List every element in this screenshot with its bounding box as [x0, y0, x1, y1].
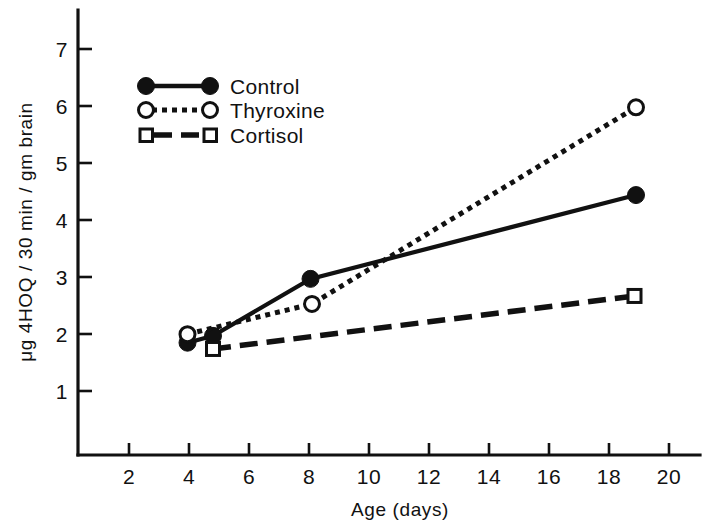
- x-axis-ticks: [129, 443, 669, 455]
- y-tick-label: 3: [56, 266, 68, 289]
- chart-figure: 7 6 5 4 3 2 1 2 4 6 8 10 1: [0, 0, 715, 530]
- legend-item-control: Control: [138, 75, 300, 98]
- y-axis-ticks: [78, 49, 92, 391]
- data-point-open-circle: [305, 296, 320, 311]
- x-tick-label: 14: [477, 465, 501, 488]
- legend-item-thyroxine: Thyroxine: [139, 99, 325, 122]
- data-point-open-square: [207, 342, 220, 355]
- y-tick-label: 4: [56, 209, 68, 232]
- x-tick-label: 16: [537, 465, 561, 488]
- x-tick-label: 18: [597, 465, 621, 488]
- y-tick-label: 5: [56, 152, 68, 175]
- data-point-filled-circle: [302, 270, 319, 287]
- x-tick-label: 2: [123, 465, 135, 488]
- data-point-filled-circle: [628, 187, 645, 204]
- chart-legend: Control Thyroxine Cortisol: [138, 75, 325, 147]
- line-chart: 7 6 5 4 3 2 1 2 4 6 8 10 1: [0, 0, 715, 530]
- legend-marker-open-circle: [203, 103, 218, 118]
- y-axis-title: μg 4HOQ / 30 min / gm brain: [15, 102, 36, 361]
- y-tick-label: 6: [56, 95, 68, 118]
- x-tick-label: 10: [357, 465, 381, 488]
- legend-marker-open-circle: [139, 103, 154, 118]
- legend-marker-filled-circle: [202, 78, 219, 95]
- data-point-open-square: [628, 289, 641, 302]
- x-tick-label: 8: [303, 465, 315, 488]
- y-axis-tick-labels: 7 6 5 4 3 2 1: [56, 38, 68, 403]
- x-tick-label: 6: [243, 465, 255, 488]
- x-axis-title: Age (days): [351, 499, 449, 520]
- legend-label-cortisol: Cortisol: [230, 124, 304, 147]
- legend-item-cortisol: Cortisol: [140, 124, 304, 147]
- x-tick-label: 12: [417, 465, 441, 488]
- legend-marker-filled-circle: [138, 78, 155, 95]
- legend-marker-open-square: [140, 129, 153, 142]
- legend-marker-open-square: [204, 129, 217, 142]
- x-axis-tick-labels: 2 4 6 8 10 12 14 16 18 20: [123, 465, 681, 488]
- x-tick-label: 20: [657, 465, 681, 488]
- legend-label-control: Control: [230, 75, 300, 98]
- series-line-cortisol: [213, 296, 635, 349]
- y-tick-label: 1: [56, 380, 68, 403]
- y-tick-label: 7: [56, 38, 68, 61]
- series-line-control: [188, 195, 637, 343]
- data-point-open-circle: [629, 100, 644, 115]
- data-point-open-circle: [180, 327, 195, 342]
- legend-label-thyroxine: Thyroxine: [230, 99, 325, 122]
- y-tick-label: 2: [56, 323, 68, 346]
- x-tick-label: 4: [183, 465, 195, 488]
